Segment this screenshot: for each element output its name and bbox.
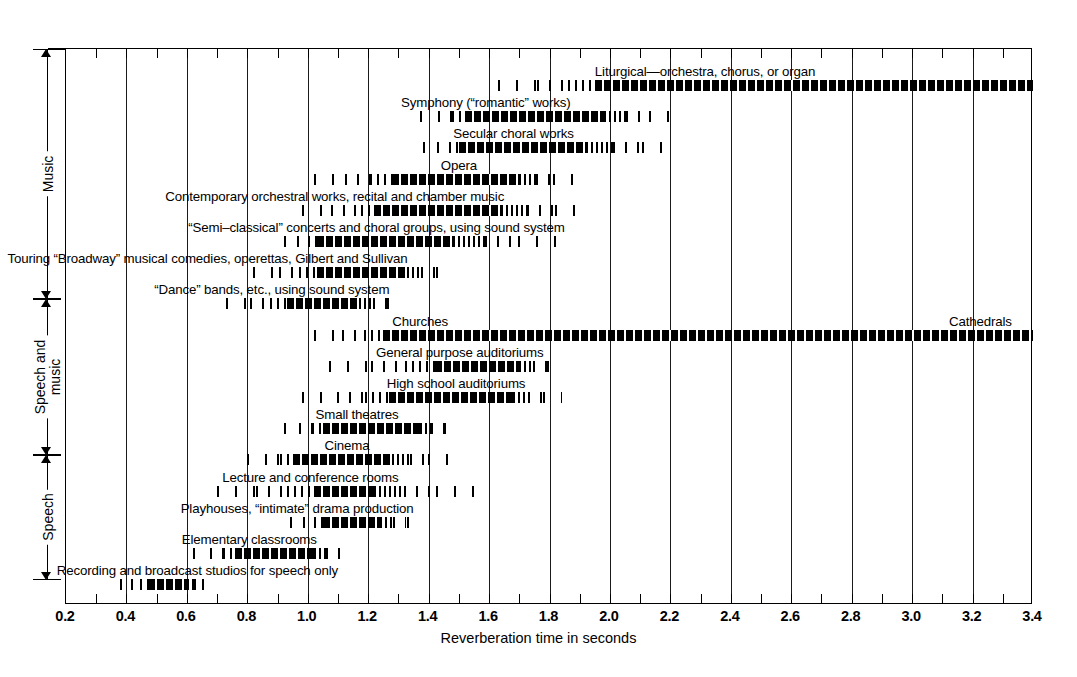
bar-segment <box>374 205 501 216</box>
bar-row-churches-cathedrals[interactable]: ChurchesCathedrals <box>66 312 1033 342</box>
bar-row-opera[interactable]: Opera <box>66 156 1033 186</box>
bar-segment <box>202 579 211 590</box>
x-tick-label: 1.6 <box>478 608 497 624</box>
bar-row-recording-broadcast-studios[interactable]: Recording and broadcast studios for spee… <box>66 561 1033 591</box>
bar-segment <box>595 80 1033 91</box>
bar-general-purpose-auditoriums[interactable] <box>66 361 1033 372</box>
x-tick-label: 2.6 <box>781 608 800 624</box>
bar-row-small-theatres[interactable]: Small theatres <box>66 405 1033 435</box>
bar-secular-choral[interactable] <box>66 142 1033 153</box>
axis-tick <box>761 594 762 603</box>
bar-contemporary-orchestral[interactable] <box>66 205 1033 216</box>
bar-segment <box>528 392 543 403</box>
bar-row-general-purpose-auditoriums[interactable]: General purpose auditoriums <box>66 343 1033 373</box>
axis-tick <box>157 49 158 58</box>
bar-row-playhouses[interactable]: Playhouses, “intimate” drama production <box>66 499 1033 529</box>
axis-tick <box>398 594 399 603</box>
bar-row-contemporary-orchestral[interactable]: Contemporary orchestral works, recital a… <box>66 187 1033 217</box>
bar-segment <box>299 423 312 434</box>
bar-segment <box>331 205 354 216</box>
axis-tick <box>247 594 248 603</box>
bar-segment <box>302 205 331 216</box>
axis-tick <box>519 49 520 58</box>
bar-dance-bands[interactable] <box>66 298 1033 309</box>
bar-semi-classical[interactable] <box>66 236 1033 247</box>
bar-high-school-auditoriums[interactable] <box>66 392 1033 403</box>
category-label-music: Music <box>39 152 58 197</box>
axis-tick <box>519 594 520 603</box>
bar-label-touring-broadway: Touring “Broadway” musical comedies, ope… <box>7 251 407 266</box>
category-axis: MusicSpeech andmusicSpeech <box>30 48 66 604</box>
axis-tick <box>459 594 460 603</box>
axis-tick <box>187 49 188 58</box>
bar-segment <box>370 174 392 185</box>
x-tick-label: 1.8 <box>539 608 558 624</box>
bar-playhouses[interactable] <box>66 517 1033 528</box>
bar-label-churches-cathedrals: Churches <box>392 314 448 329</box>
x-axis-title: Reverberation time in seconds <box>0 630 1077 646</box>
bar-small-theatres[interactable] <box>66 423 1033 434</box>
bar-row-symphony[interactable]: Symphony (“romantic” works) <box>66 93 1033 123</box>
x-tick-label: 1.4 <box>418 608 437 624</box>
bar-segment <box>437 142 449 153</box>
bar-segment <box>604 111 626 122</box>
bar-row-dance-bands[interactable]: “Dance” bands, etc., using sound system <box>66 280 1033 310</box>
axis-tick <box>821 49 822 58</box>
bar-segment <box>256 486 287 497</box>
bar-row-elementary-classrooms[interactable]: Elementary classrooms <box>66 530 1033 560</box>
category-group-speech: Speech <box>30 455 66 581</box>
bar-segment <box>314 486 374 497</box>
bar-segment <box>290 517 303 528</box>
bar-segment <box>345 174 370 185</box>
bar-label-small-theatres: Small theatres <box>316 407 399 422</box>
bar-label-lecture-conference-rooms: Lecture and conference rooms <box>222 470 398 485</box>
bar-cinema[interactable] <box>66 454 1033 465</box>
bar-row-secular-choral[interactable]: Secular choral works <box>66 124 1033 154</box>
bar-label-contemporary-orchestral: Contemporary orchestral works, recital a… <box>165 189 504 204</box>
bar-segment <box>120 579 131 590</box>
bar-segment <box>421 267 436 278</box>
bar-row-liturgical[interactable]: Liturgical—orchestra, chorus, or organ <box>66 62 1033 92</box>
bar-elementary-classrooms[interactable] <box>66 548 1033 559</box>
axis-tick <box>308 594 309 603</box>
bar-segment <box>387 298 404 309</box>
bar-segment <box>299 267 317 278</box>
axis-tick <box>489 49 490 58</box>
bar-liturgical[interactable] <box>66 80 1033 91</box>
bar-opera[interactable] <box>66 174 1033 185</box>
bar-row-cinema[interactable]: Cinema <box>66 436 1033 466</box>
bar-segment <box>407 267 421 278</box>
bar-segment <box>392 454 409 465</box>
bar-row-high-school-auditoriums[interactable]: High school auditoriums <box>66 374 1033 404</box>
axis-tick <box>550 49 551 58</box>
bar-segment <box>210 548 224 559</box>
bar-churches-cathedrals[interactable] <box>66 330 1033 341</box>
bar-segment <box>383 330 1033 341</box>
bar-label-playhouses: Playhouses, “intimate” drama production <box>181 501 414 516</box>
bar-segment <box>253 267 278 278</box>
bar-segment <box>498 80 537 91</box>
bar-recording-broadcast-studios[interactable] <box>66 579 1033 590</box>
bar-segment <box>247 454 265 465</box>
bar-segment <box>420 111 438 122</box>
bar-row-touring-broadway[interactable]: Touring “Broadway” musical comedies, ope… <box>66 249 1033 279</box>
bar-segment <box>586 142 613 153</box>
bar-row-semi-classical[interactable]: “Semi–classical” concerts and choral gro… <box>66 218 1033 248</box>
bar-segment <box>329 361 371 372</box>
axis-tick <box>791 49 792 58</box>
x-tick-label: 0.8 <box>237 608 256 624</box>
bar-row-lecture-conference-rooms[interactable]: Lecture and conference rooms <box>66 468 1033 498</box>
bar-segment <box>314 174 345 185</box>
axis-tick <box>96 49 97 58</box>
bar-segment <box>270 298 287 309</box>
bar-lecture-conference-rooms[interactable] <box>66 486 1033 497</box>
axis-tick <box>338 594 339 603</box>
bar-symphony[interactable] <box>66 111 1033 122</box>
bar-segment <box>235 548 314 559</box>
bar-segment <box>392 174 519 185</box>
bar-segment <box>317 267 408 278</box>
bar-segment <box>519 174 535 185</box>
bar-touring-broadway[interactable] <box>66 267 1033 278</box>
axis-tick <box>942 49 943 58</box>
axis-tick <box>731 594 732 603</box>
